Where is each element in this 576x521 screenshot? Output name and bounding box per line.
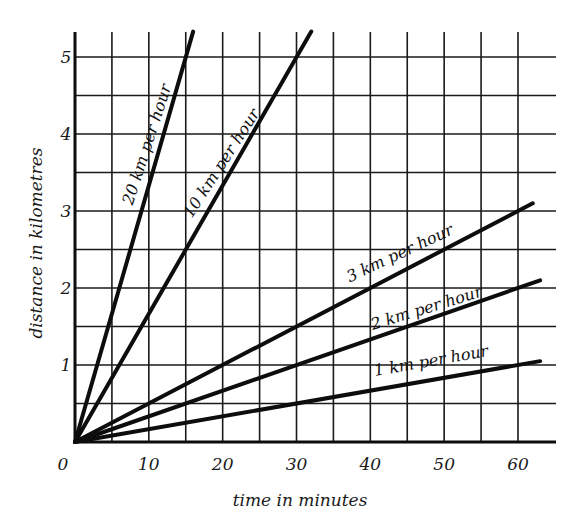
y-tick-label: 3: [61, 201, 72, 221]
x-tick-label: 20: [211, 454, 234, 474]
x-tick-label: 60: [507, 454, 529, 474]
series-line-4: [75, 361, 540, 442]
series-label-10kmh: 10 km per hour: [179, 104, 264, 221]
x-tick-label: 50: [433, 454, 455, 474]
y-axis-title: distance in kilometres: [26, 147, 46, 338]
series-lines: [75, 32, 540, 442]
x-axis-title: time in minutes: [233, 490, 368, 510]
y-tick-label: 1: [61, 355, 72, 375]
x-tick-label: 40: [359, 454, 382, 474]
grid: [75, 32, 556, 442]
y-tick-label: 4: [60, 124, 72, 144]
y-tick-label: 5: [61, 47, 72, 67]
distance-time-chart: 010203040506012345 time in minutes dista…: [0, 0, 576, 521]
x-tick-label: 10: [138, 454, 160, 474]
axes: [75, 32, 556, 442]
series-line-0: [75, 32, 193, 442]
x-tick-label: 0: [58, 454, 69, 474]
x-tick-label: 30: [286, 454, 308, 474]
y-tick-label: 2: [60, 278, 72, 298]
